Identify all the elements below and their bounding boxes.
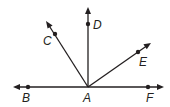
label-c: C [43,34,52,48]
point-c [53,32,57,36]
arrowhead-c-icon [46,21,53,29]
label-f: F [146,91,154,105]
label-e: E [139,55,148,69]
angle-diagram: B A F D C E [0,0,170,107]
arrowhead-d-icon [85,7,91,14]
label-b: B [22,91,30,105]
point-b [26,85,30,89]
point-d [86,22,90,26]
arrowhead-e-icon [143,43,151,49]
arrowhead-f-icon [157,84,164,90]
arrowhead-b-icon [13,84,20,90]
label-a: A [82,91,91,105]
label-d: D [93,18,102,32]
point-e [136,50,140,54]
point-f [146,85,150,89]
